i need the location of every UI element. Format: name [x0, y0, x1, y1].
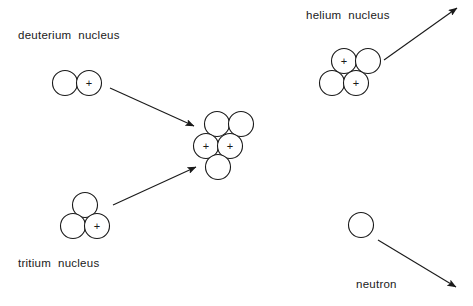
- nucleus-neutron: [349, 213, 374, 238]
- neutron-circle: [53, 71, 78, 96]
- arrow-deuterium-to-compound: [110, 88, 194, 126]
- neutron-circle: [349, 213, 374, 238]
- nucleus-compound: ++: [194, 112, 254, 180]
- neutron-circle: [61, 214, 86, 239]
- neutron-circle: [205, 112, 230, 137]
- nucleus-deuterium: +: [53, 71, 102, 96]
- proton-charge-symbol: +: [94, 220, 100, 232]
- arrow-tritium-to-compound: [113, 167, 196, 205]
- neutron-circle: [206, 155, 231, 180]
- label-tritium-nucleus: tritium nucleus: [18, 258, 99, 270]
- fusion-diagram: ++++++ deuterium nucleus tritium nucleus…: [0, 0, 473, 306]
- arrow-layer: [110, 8, 457, 287]
- neutron-circle: [356, 49, 381, 74]
- label-helium-nucleus: helium nucleus: [306, 10, 390, 22]
- neutron-circle: [320, 71, 345, 96]
- label-deuterium-nucleus: deuterium nucleus: [18, 30, 120, 42]
- proton-charge-symbol: +: [227, 140, 233, 152]
- proton-charge-symbol: +: [203, 140, 209, 152]
- nucleus-helium: ++: [320, 49, 381, 96]
- proton-charge-symbol: +: [341, 55, 347, 67]
- arrow-helium-emitted: [384, 8, 457, 60]
- proton-charge-symbol: +: [86, 77, 92, 89]
- particle-layer: ++++++: [53, 49, 381, 239]
- neutron-circle: [229, 112, 254, 137]
- nucleus-tritium: +: [61, 193, 110, 239]
- proton-charge-symbol: +: [353, 77, 359, 89]
- label-neutron: neutron: [356, 279, 397, 291]
